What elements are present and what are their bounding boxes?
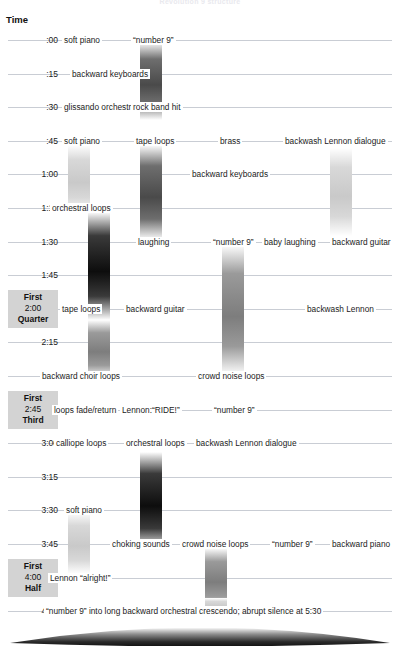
event-label: laughing [136,237,171,247]
gridline [8,275,392,276]
event-label: backward choir loops [40,371,122,381]
event-label: backwash Lennon [305,304,376,314]
event-label: backward piano [330,539,392,549]
orchestral-loops-bar-2 [140,452,162,550]
section-marker-bottom: Half [8,583,58,594]
time-tick-label: 1:00 [14,170,58,179]
backward-choir-loops-bar [88,320,110,378]
event-label: calliope loops [54,438,108,448]
event-label: “number 9” [212,405,257,415]
event-label: glissando orchestra [62,102,138,112]
event-label: “number 9” into long backward orchestral… [44,606,323,616]
event-label: Lennon “alright!” [48,573,112,583]
time-tick-label: :00 [14,36,58,45]
event-label: Lennon:“RIDE!” [120,405,182,415]
soft-piano-bar-2 [68,512,90,574]
time-tick-label: :30 [14,103,58,112]
crescendo-lens-shape [10,616,390,646]
tape-loops-bar-1 [140,145,162,240]
section-marker-top: First [8,561,58,572]
event-label: soft piano [62,35,102,45]
page-title: Revolution 9 structure [0,0,400,5]
gridline [8,477,392,478]
event-label: orchestral loops [124,438,187,448]
event-label: tape loops [60,304,102,314]
event-label: “number 9” [211,237,256,247]
event-label: “number 9” [270,539,315,549]
event-label: “number 9” [131,35,176,45]
event-label: backward keyboards [70,69,150,79]
section-marker: First2:00Quarter [8,290,58,328]
section-marker-time: 2:00 [8,303,58,314]
event-label: orchestral loops [50,203,113,213]
event-label: backward guitar [124,304,187,314]
time-axis-label: Time [6,14,28,25]
gridline [8,342,392,343]
time-tick-label: :15 [14,69,58,78]
revolution-9-structure-chart: Revolution 9 structure Time :00:15:30:45… [0,0,400,650]
time-tick-label: 3:00 [14,439,58,448]
number-9-bar-2 [222,245,244,375]
event-label: crowd noise loops [180,539,250,549]
time-tick-label: 2:15 [14,338,58,347]
time-tick-label: 1:30 [14,237,58,246]
event-label: baby laughing [262,237,318,247]
event-label: tape loops [134,136,176,146]
event-label: backwash Lennon dialogue [283,136,388,146]
section-marker-top: First [8,393,58,404]
event-label: loops fade/return [52,405,118,415]
event-label: backward guitar [330,237,393,247]
time-tick-label: 1:45 [14,271,58,280]
event-label: backward keyboards [190,169,270,179]
section-marker-top: First [8,292,58,303]
gridline [8,74,392,75]
event-label: crowd noise loops [196,371,266,381]
event-label: soft piano [62,136,102,146]
event-label: brass [218,136,242,146]
time-tick-label: 3:45 [14,540,58,549]
section-marker-time: 2:45 [8,404,58,415]
time-tick-label: 3:30 [14,506,58,515]
time-tick-label: :45 [14,136,58,145]
event-label: backwash Lennon dialogue [194,438,299,448]
event-label: soft piano [64,505,104,515]
event-label: rock band hit [131,102,183,112]
backwash-lennon-bar-1 [330,148,352,236]
event-label: choking sounds [110,539,172,549]
section-marker-bottom: Third [8,415,58,426]
time-tick-label: 3:15 [14,472,58,481]
section-marker-bottom: Quarter [8,314,58,325]
section-marker: First2:45Third [8,391,58,429]
